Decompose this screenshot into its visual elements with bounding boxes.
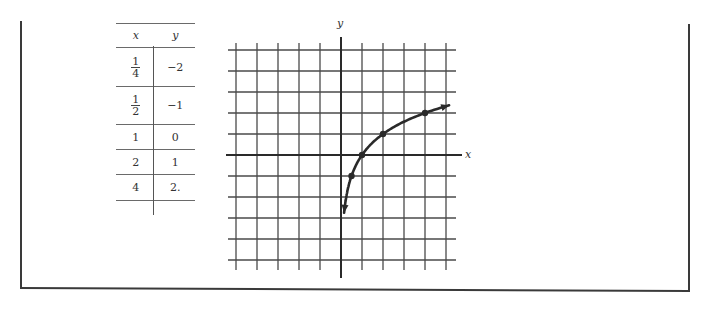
data-point bbox=[380, 131, 386, 137]
coordinate-graph bbox=[0, 0, 711, 312]
data-point bbox=[348, 173, 354, 179]
y-axis-label: y bbox=[337, 17, 343, 30]
x-axis-label: x bbox=[465, 148, 471, 161]
data-point bbox=[422, 110, 428, 116]
curve-arrow-right-icon bbox=[440, 104, 449, 111]
data-point bbox=[359, 152, 365, 158]
